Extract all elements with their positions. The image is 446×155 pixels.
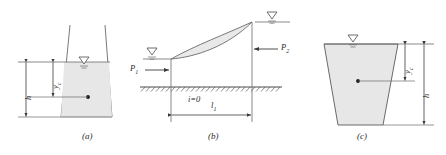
label-depth-a: h — [24, 96, 33, 100]
label-force-p2-b: P2 — [281, 43, 289, 54]
figure-vector-canvas — [0, 0, 446, 155]
panel-a-graphic — [18, 25, 112, 117]
water-area-a — [61, 62, 112, 117]
figure-container: h yc P1 P2 i=0 l1 yc h (a) (b) (c) — [0, 0, 446, 155]
label-depth-c: h — [422, 94, 431, 98]
caption-panel-c: (c) — [357, 131, 367, 141]
bed-hatching-b — [141, 87, 280, 92]
water-surface-triangle-icon-b-upstream — [147, 48, 157, 55]
water-area-c — [324, 44, 398, 125]
label-length-b: l1 — [211, 101, 216, 112]
label-slope-b: i=0 — [188, 95, 200, 104]
water-surface-triangle-icon-c — [348, 35, 358, 42]
panel-c-graphic — [324, 35, 434, 125]
label-centroid-depth-c: yc — [403, 68, 414, 74]
caption-panel-a: (a) — [82, 131, 93, 141]
backwater-curve-region-b — [171, 22, 252, 59]
water-surface-triangle-icon-b-downstream — [267, 12, 277, 19]
label-centroid-depth-a: yc — [51, 83, 62, 89]
caption-panel-b: (b) — [208, 131, 219, 141]
label-force-p1-b: P1 — [130, 64, 138, 75]
